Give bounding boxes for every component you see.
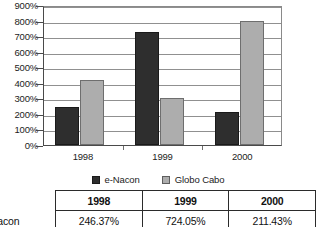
data-table: 1998 1999 2000 e-Nacon 246.37% 724.05% 2… xyxy=(0,190,316,227)
data-table-container: 1998 1999 2000 e-Nacon 246.37% 724.05% 2… xyxy=(0,190,316,227)
legend-item-label: Globo Cabo xyxy=(175,174,225,185)
bar-1999-e-nacon xyxy=(135,32,159,145)
y-axis-tick-mark xyxy=(36,22,43,23)
bar-chart: 0%100%200%300%400%500%600%700%800%900% 1… xyxy=(0,0,316,172)
legend-item-globo-cabo: Globo Cabo xyxy=(162,174,225,185)
bar-2000-globo-cabo xyxy=(240,21,264,145)
table-header-1999: 1999 xyxy=(142,191,229,211)
bar-1998-globo-cabo xyxy=(80,80,104,145)
x-axis-tick-label: 2000 xyxy=(202,151,282,163)
y-axis: 0%100%200%300%400%500%600%700%800%900% xyxy=(0,0,41,145)
y-axis-tick-mark xyxy=(36,68,43,69)
table-corner-cell xyxy=(0,191,56,211)
y-axis-tick-mark xyxy=(36,6,43,7)
y-axis-tick-label: 200% xyxy=(15,110,39,120)
x-axis-tick-mark xyxy=(123,146,124,150)
bar-1998-e-nacon xyxy=(55,107,79,145)
table-cell-2000: 211.43% xyxy=(229,211,316,228)
table-header-2000: 2000 xyxy=(229,191,316,211)
y-axis-tick-label: 100% xyxy=(15,125,39,135)
legend-item-e-nacon: e-Nacon xyxy=(92,174,140,185)
bar-2000-e-nacon xyxy=(215,112,239,145)
legend-item-label: e-Nacon xyxy=(105,174,140,185)
y-axis-tick-marks xyxy=(36,6,43,146)
y-axis-tick-label: 700% xyxy=(15,32,39,42)
y-axis-tick-label: 800% xyxy=(15,17,39,27)
y-axis-tick-mark xyxy=(36,130,43,131)
y-axis-tick-mark xyxy=(36,84,43,85)
legend-swatch-icon xyxy=(92,176,100,184)
x-axis-tick-label: 1998 xyxy=(43,151,123,163)
legend-swatch-icon xyxy=(162,176,170,184)
y-axis-tick-mark xyxy=(36,146,43,147)
plot-area xyxy=(43,6,282,146)
gridline xyxy=(44,7,281,8)
y-axis-tick-label: 300% xyxy=(15,94,39,104)
y-axis-tick-label: 600% xyxy=(15,48,39,58)
y-axis-tick-label: 900% xyxy=(15,1,39,11)
y-axis-tick-mark xyxy=(36,99,43,100)
table-cell-1999: 724.05% xyxy=(142,211,229,228)
bar-1999-globo-cabo xyxy=(160,98,184,145)
table-header-1998: 1998 xyxy=(56,191,143,211)
y-axis-tick-mark xyxy=(36,53,43,54)
y-axis-tick-mark xyxy=(36,37,43,38)
y-axis-tick-label: 400% xyxy=(15,79,39,89)
chart-legend: e-Nacon Globo Cabo xyxy=(0,171,316,188)
x-axis: 199819992000 xyxy=(43,151,282,165)
x-axis-tick-mark xyxy=(202,146,203,150)
y-axis-tick-mark xyxy=(36,115,43,116)
table-cell-1998: 246.37% xyxy=(56,211,143,228)
y-axis-tick-label: 500% xyxy=(15,63,39,73)
table-row: e-Nacon 246.37% 724.05% 211.43% xyxy=(0,211,316,228)
table-header-row: 1998 1999 2000 xyxy=(0,191,316,211)
table-row-label: e-Nacon xyxy=(0,211,56,228)
x-axis-tick-label: 1999 xyxy=(123,151,203,163)
